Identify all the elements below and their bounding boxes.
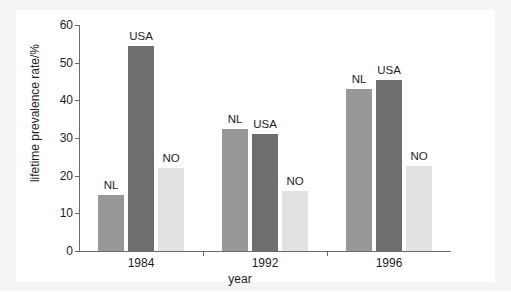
y-tick-label-text: 20 bbox=[43, 170, 73, 182]
bar-1996-USA bbox=[376, 80, 402, 251]
y-tick-60 bbox=[75, 25, 79, 26]
bar-1992-USA bbox=[252, 134, 278, 251]
bar-label-1992-USA: USA bbox=[242, 118, 288, 130]
y-tick-label-text: 60 bbox=[43, 19, 73, 31]
x-tick-label-1984: 1984 bbox=[106, 256, 176, 270]
y-tick-0 bbox=[75, 251, 79, 252]
y-tick-label-60: 60 bbox=[40, 19, 73, 31]
y-tick-50 bbox=[75, 63, 79, 64]
x-axis-title: year bbox=[180, 272, 300, 286]
y-tick-20 bbox=[75, 176, 79, 177]
y-tick-label-50: 50 bbox=[40, 57, 73, 69]
x-tick-label-1992: 1992 bbox=[230, 256, 300, 270]
y-axis-line bbox=[79, 25, 80, 252]
y-axis-title: lifetime prevalence rate/% bbox=[28, 3, 42, 223]
y-tick-10 bbox=[75, 213, 79, 214]
bar-1992-NO bbox=[282, 191, 308, 251]
bar-1996-NO bbox=[406, 166, 432, 251]
bar-1984-NO bbox=[158, 168, 184, 251]
y-tick-30 bbox=[75, 138, 79, 139]
y-tick-label-text: 50 bbox=[43, 57, 73, 69]
bar-label-1996-USA: USA bbox=[366, 64, 412, 76]
y-tick-label-text: 0 bbox=[43, 245, 73, 257]
bar-1992-NL bbox=[222, 129, 248, 251]
y-tick-label-text: 10 bbox=[43, 207, 73, 219]
bar-1984-USA bbox=[128, 46, 154, 251]
y-tick-40 bbox=[75, 100, 79, 101]
y-tick-label-text: 40 bbox=[43, 94, 73, 106]
y-tick-label-20: 20 bbox=[40, 170, 73, 182]
chart-figure: 0102030405060 198419921996 lifetime prev… bbox=[0, 0, 511, 302]
y-tick-label-30: 30 bbox=[40, 132, 73, 144]
bar-1984-NL bbox=[98, 195, 124, 252]
y-tick-label-40: 40 bbox=[40, 94, 73, 106]
x-tick-label-1996: 1996 bbox=[354, 256, 424, 270]
y-tick-label-text: 30 bbox=[43, 132, 73, 144]
bar-label-1984-NO: NO bbox=[148, 152, 194, 164]
x-axis-line bbox=[79, 251, 451, 252]
x-tick-separator-2 bbox=[327, 252, 328, 256]
bar-label-1996-NO: NO bbox=[396, 150, 442, 162]
y-tick-label-0: 0 bbox=[40, 245, 73, 257]
x-tick-separator-1 bbox=[203, 252, 204, 256]
y-tick-label-10: 10 bbox=[40, 207, 73, 219]
bar-label-1992-NO: NO bbox=[272, 175, 318, 187]
bar-1996-NL bbox=[346, 89, 372, 251]
bar-label-1984-USA: USA bbox=[118, 30, 164, 42]
